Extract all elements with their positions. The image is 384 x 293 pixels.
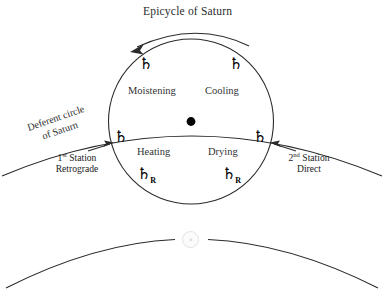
epicycle-motion-arc xyxy=(137,33,249,47)
diagram-geometry xyxy=(0,0,384,293)
saturn-glyph: ♄ xyxy=(253,127,267,146)
second-station-word: Station xyxy=(302,152,329,163)
first-station-label: 1st Station Retrograde xyxy=(36,152,118,175)
saturn-glyph: ♄ xyxy=(114,127,128,146)
saturn-upper-left-icon: ♄ xyxy=(139,56,153,72)
second-station-ordinal: nd xyxy=(293,151,300,158)
quadrant-label-drying: Drying xyxy=(208,146,238,158)
lower-arc-right xyxy=(208,240,378,289)
second-station-label: 2nd Station Direct xyxy=(268,152,350,175)
quadrant-label-heating: Heating xyxy=(137,146,170,158)
epicycle-diagram: Epicycle of Saturn Deferent circle of Sa… xyxy=(0,0,384,293)
saturn-lower-right-retrograde-icon: ♄R xyxy=(222,166,241,182)
saturn-glyph: ♄ xyxy=(229,54,243,73)
saturn-lower-left-retrograde-icon: ♄R xyxy=(137,166,156,182)
retrograde-mark: R xyxy=(150,176,156,185)
saturn-upper-right-icon: ♄ xyxy=(229,56,243,72)
first-station-ordinal: st xyxy=(62,151,66,158)
quadrant-label-moistening: Moistening xyxy=(128,85,176,97)
first-station-word: Station xyxy=(69,152,96,163)
lower-arc-left xyxy=(6,240,175,289)
earth-icon xyxy=(182,231,199,248)
saturn-right-station-icon: ♄ xyxy=(253,129,267,145)
second-station-arrowhead xyxy=(270,140,282,147)
saturn-glyph: ♄ xyxy=(139,54,153,73)
second-station-state: Direct xyxy=(297,163,321,174)
retrograde-mark: R xyxy=(235,176,241,185)
quadrant-label-cooling: Cooling xyxy=(205,85,239,97)
figure-title: Epicycle of Saturn xyxy=(143,5,232,19)
saturn-left-station-icon: ♄ xyxy=(114,129,128,145)
epicycle-motion-arrowhead xyxy=(130,44,144,55)
epicycle-center-dot xyxy=(187,117,196,126)
first-station-state: Retrograde xyxy=(56,163,99,174)
